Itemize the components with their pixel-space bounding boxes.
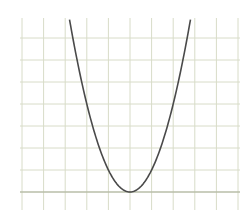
parabola-chart [0,0,252,215]
grid-lines [20,18,240,210]
